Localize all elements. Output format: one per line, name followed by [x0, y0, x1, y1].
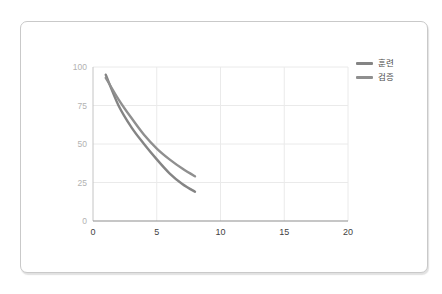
- series-line-0: [106, 75, 195, 192]
- y-tick-label: 0: [82, 216, 87, 226]
- legend-label: 검증: [378, 73, 394, 82]
- x-tick-label: 5: [154, 227, 159, 237]
- legend-item: 훈련: [356, 59, 394, 68]
- series-line-1: [106, 78, 195, 177]
- x-tick-label: 15: [279, 227, 289, 237]
- legend-label: 훈련: [378, 59, 394, 68]
- legend: 훈련검증: [356, 59, 394, 82]
- chart-card: 025507510005101520 훈련검증: [20, 21, 428, 273]
- x-tick-label: 10: [215, 227, 225, 237]
- y-tick-label: 50: [78, 139, 88, 149]
- x-tick-label: 0: [90, 227, 95, 237]
- legend-line-swatch: [356, 62, 373, 65]
- legend-line-swatch: [356, 76, 373, 79]
- page: { "page": { "background": "#ffffff" }, "…: [0, 0, 442, 294]
- y-tick-label: 75: [78, 101, 88, 111]
- legend-item: 검증: [356, 73, 394, 82]
- y-tick-label: 100: [73, 62, 87, 72]
- y-tick-label: 25: [78, 178, 88, 188]
- x-tick-label: 20: [343, 227, 353, 237]
